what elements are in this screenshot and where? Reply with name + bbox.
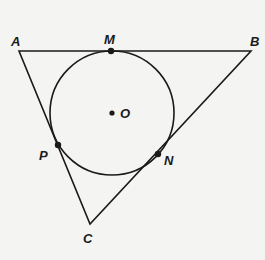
label-a: A bbox=[10, 34, 20, 49]
point-o bbox=[109, 110, 114, 115]
label-m: M bbox=[104, 32, 116, 47]
label-c: C bbox=[83, 231, 93, 246]
point-p bbox=[55, 142, 61, 148]
label-n: N bbox=[164, 153, 174, 168]
point-n bbox=[155, 151, 161, 157]
label-p: P bbox=[39, 148, 48, 163]
triangle-incircle-diagram: A M B O P N C bbox=[0, 0, 265, 260]
triangle-abc bbox=[19, 51, 251, 224]
label-o: O bbox=[120, 106, 130, 121]
point-m bbox=[108, 48, 114, 54]
label-b: B bbox=[250, 34, 259, 49]
